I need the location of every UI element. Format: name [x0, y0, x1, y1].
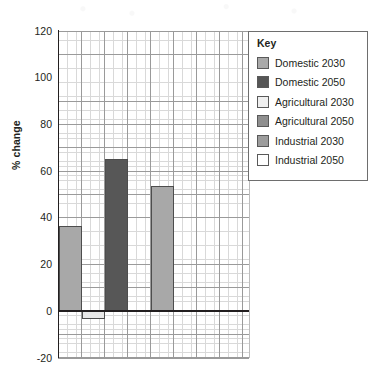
y-axis-tick-label: 40	[18, 212, 52, 223]
legend-items: Domestic 2030Domestic 2050Agricultural 2…	[257, 53, 367, 170]
legend-swatch-icon	[257, 96, 269, 108]
legend-item: Agricultural 2050	[257, 112, 367, 132]
legend-box: Key Domestic 2030Domestic 2050Agricultur…	[248, 31, 368, 181]
y-axis-tick-label: 0	[18, 306, 52, 317]
legend-title: Key	[257, 37, 367, 50]
legend-item: Agricultural 2030	[257, 92, 367, 112]
bar	[82, 311, 105, 319]
scan-artifact	[0, 0, 377, 22]
plot-area	[58, 31, 249, 358]
plot-bottom-edge	[58, 358, 249, 359]
legend-item-label: Agricultural 2050	[275, 115, 354, 127]
y-axis-tick-label: 120	[18, 26, 52, 37]
legend-item: Industrial 2030	[257, 131, 367, 151]
bar-chart: % change 120100806040200-20 Key Domestic…	[0, 0, 377, 379]
legend-item-label: Industrial 2050	[275, 154, 344, 166]
legend-item-label: Industrial 2030	[275, 135, 344, 147]
bar	[151, 186, 174, 311]
legend-swatch-icon	[257, 154, 269, 166]
legend-item-label: Domestic 2050	[275, 76, 345, 88]
y-axis-tick-label: 100	[18, 72, 52, 83]
y-axis-tick-label: 20	[18, 259, 52, 270]
bar	[105, 159, 128, 311]
legend-swatch-icon	[257, 57, 269, 69]
legend-swatch-icon	[257, 115, 269, 127]
legend-item-label: Domestic 2030	[275, 57, 345, 69]
bar	[59, 226, 82, 311]
legend-swatch-icon	[257, 135, 269, 147]
legend-swatch-icon	[257, 76, 269, 88]
y-axis-tick-label: -20	[18, 353, 52, 364]
y-axis-ticks: 120100806040200-20	[14, 0, 52, 379]
legend-item: Domestic 2030	[257, 53, 367, 73]
legend-item-label: Agricultural 2030	[275, 96, 354, 108]
legend-item: Domestic 2050	[257, 73, 367, 93]
y-axis-tick-label: 60	[18, 166, 52, 177]
legend-item: Industrial 2050	[257, 151, 367, 171]
zero-baseline	[58, 310, 249, 312]
y-axis-tick-label: 80	[18, 119, 52, 130]
